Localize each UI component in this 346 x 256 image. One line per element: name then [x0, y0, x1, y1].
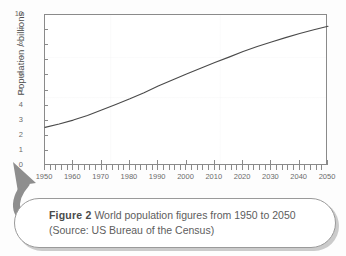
x-tick-mark	[101, 160, 102, 165]
x-tick-mark	[214, 160, 215, 165]
y-tick-label: 4	[1, 101, 23, 109]
x-tick-label: 2020	[227, 172, 257, 181]
figure-label: Figure 2	[49, 209, 91, 221]
x-tick-label: 2040	[284, 172, 314, 181]
x-tick-mark	[270, 160, 271, 165]
y-tick-mark	[44, 135, 48, 136]
x-tick-label: 1990	[142, 172, 172, 181]
y-tick-mark	[44, 74, 48, 75]
x-tick-label: 1980	[114, 172, 144, 181]
x-tick-label: 2030	[255, 172, 285, 181]
x-axis-minor-ticks	[44, 165, 327, 170]
plot-area	[44, 14, 327, 165]
x-tick-label: 1960	[57, 172, 87, 181]
x-tick-label: 2050	[312, 172, 342, 181]
y-tick-label: 6	[1, 70, 23, 78]
x-tick-label: 2010	[199, 172, 229, 181]
y-tick-label: 8	[1, 40, 23, 48]
y-tick-mark	[44, 105, 48, 106]
x-tick-mark	[299, 160, 300, 165]
y-tick-label: 2	[1, 131, 23, 139]
x-tick-label: 1970	[86, 172, 116, 181]
x-tick-mark	[242, 160, 243, 165]
y-tick-label: 1	[1, 146, 23, 154]
x-tick-mark	[186, 160, 187, 165]
y-tick-label: 3	[1, 116, 23, 124]
figure-caption: Figure 2 World population figures from 1…	[49, 208, 317, 238]
x-tick-label: 2000	[171, 172, 201, 181]
x-tick-mark	[157, 160, 158, 165]
y-tick-mark	[44, 44, 48, 45]
y-tick-label: 9	[1, 25, 23, 33]
y-tick-label: 10	[1, 10, 23, 18]
figure-page: Population / billions 012345678910 19501…	[0, 0, 346, 256]
y-tick-mark	[44, 59, 48, 60]
x-tick-mark	[129, 160, 130, 165]
x-tick-mark	[72, 160, 73, 165]
y-tick-mark	[44, 150, 48, 151]
population-curve	[45, 15, 328, 166]
y-tick-mark	[44, 90, 48, 91]
y-tick-mark	[44, 29, 48, 30]
figure-caption-box: Figure 2 World population figures from 1…	[14, 198, 336, 248]
y-tick-mark	[44, 120, 48, 121]
y-tick-label: 7	[1, 55, 23, 63]
x-tick-mark	[327, 160, 328, 165]
y-tick-label: 5	[1, 86, 23, 94]
